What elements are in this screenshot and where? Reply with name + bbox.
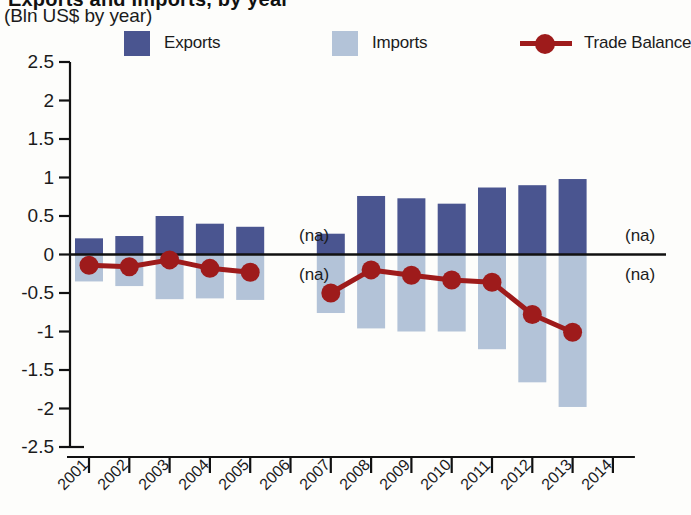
na-annotation: (na) (625, 265, 655, 285)
y-axis-tick-label: -2 (0, 398, 54, 420)
y-axis-tick-label: 2.5 (0, 51, 54, 73)
na-annotation: (na) (299, 265, 329, 285)
trade-balance-marker[interactable] (200, 259, 219, 278)
bar-exports[interactable] (196, 224, 224, 255)
bar-exports[interactable] (156, 216, 184, 255)
y-axis-tick-label: -1.5 (0, 359, 54, 381)
y-axis-tick-label: 0.5 (0, 205, 54, 227)
y-axis-tick-label: -2.5 (0, 436, 54, 458)
bar-imports[interactable] (478, 255, 506, 350)
na-annotation: (na) (625, 226, 655, 246)
trade-balance-marker[interactable] (402, 266, 421, 285)
y-axis-tick-label: 1 (0, 167, 54, 189)
y-axis-tick-label: 2 (0, 90, 54, 112)
trade-balance-marker[interactable] (523, 305, 542, 324)
trade-balance-marker[interactable] (483, 273, 502, 292)
trade-balance-marker[interactable] (241, 263, 260, 282)
bar-exports[interactable] (236, 227, 264, 255)
bar-exports[interactable] (478, 188, 506, 255)
y-axis-tick-label: -1 (0, 321, 54, 343)
y-axis-tick-label: 0 (0, 244, 54, 266)
trade-balance-marker[interactable] (321, 284, 340, 303)
y-axis-tick-label: 1.5 (0, 128, 54, 150)
trade-balance-marker[interactable] (160, 250, 179, 269)
bar-exports[interactable] (115, 236, 143, 254)
bar-exports[interactable] (518, 185, 546, 254)
bar-exports[interactable] (559, 179, 587, 254)
trade-balance-marker[interactable] (563, 323, 582, 342)
trade-balance-marker[interactable] (120, 257, 139, 276)
bar-exports[interactable] (438, 204, 466, 255)
bar-exports[interactable] (397, 198, 425, 254)
bar-exports[interactable] (357, 196, 385, 255)
na-annotation: (na) (299, 226, 329, 246)
trade-balance-marker[interactable] (442, 270, 461, 289)
bar-imports[interactable] (438, 255, 466, 332)
bar-exports[interactable] (75, 238, 103, 254)
trade-balance-marker[interactable] (80, 256, 99, 275)
y-axis-tick-label: -0.5 (0, 282, 54, 304)
trade-balance-marker[interactable] (362, 260, 381, 279)
